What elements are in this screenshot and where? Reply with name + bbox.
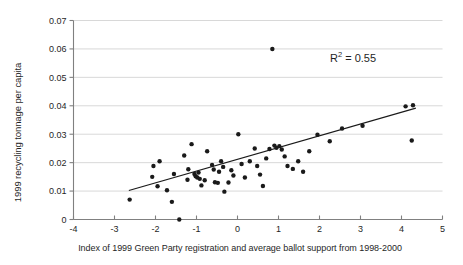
data-point [280, 147, 284, 151]
data-point [301, 170, 305, 174]
x-tick-label: -2 [151, 224, 159, 234]
data-point [210, 163, 214, 167]
x-tick-label: -3 [110, 224, 118, 234]
data-point [282, 154, 286, 158]
x-tick-label: 1 [276, 224, 281, 234]
data-point [222, 189, 226, 193]
plot-canvas: 00.010.020.030.040.050.060.07 -4-3-2-101… [0, 0, 463, 265]
data-point [185, 178, 189, 182]
data-point [296, 159, 300, 163]
x-tick-label: -4 [69, 224, 77, 234]
data-point [170, 200, 174, 204]
y-tick-labels-group: 00.010.020.030.040.050.060.07 [49, 16, 67, 225]
data-point [410, 138, 414, 142]
data-point [328, 139, 332, 143]
data-point [255, 164, 259, 168]
data-point [360, 123, 364, 127]
data-point [212, 167, 216, 171]
data-point [285, 164, 289, 168]
data-point [264, 156, 268, 160]
x-tick-label: 5 [440, 224, 445, 234]
data-point [221, 165, 225, 169]
data-point [172, 172, 176, 176]
r-squared-prefix: R [330, 52, 338, 64]
data-point [196, 170, 200, 174]
y-tick-label: 0.03 [49, 130, 67, 140]
y-tick-label: 0 [61, 215, 66, 225]
data-point [157, 159, 161, 163]
data-point [307, 149, 311, 153]
data-point [267, 147, 271, 151]
scatter-chart-figure: 1999 recycling tonnage per capita 00.010… [0, 0, 463, 265]
x-tick-label: 4 [399, 224, 404, 234]
data-point [243, 175, 247, 179]
data-point [189, 142, 193, 146]
x-tick-marks-group [74, 216, 443, 220]
y-tick-label: 0.05 [49, 73, 67, 83]
data-point [203, 178, 207, 182]
x-tick-label: 2 [317, 224, 322, 234]
trend-line [129, 108, 416, 190]
data-point [199, 183, 203, 187]
data-point [219, 159, 223, 163]
y-tick-label: 0.04 [49, 101, 67, 111]
data-point [231, 173, 235, 177]
y-tick-label: 0.01 [49, 186, 67, 196]
y-tick-label: 0.02 [49, 158, 67, 168]
data-point [205, 149, 209, 153]
data-point [150, 175, 154, 179]
data-point [229, 168, 233, 172]
data-point [217, 170, 221, 174]
x-tick-label: 3 [358, 224, 363, 234]
data-point [127, 197, 131, 201]
data-point [177, 217, 181, 221]
data-point [226, 180, 230, 184]
data-point [403, 104, 407, 108]
y-tick-label: 0.06 [49, 44, 67, 54]
data-point [315, 133, 319, 137]
y-tick-label: 0.07 [49, 16, 67, 26]
data-point [165, 188, 169, 192]
data-point [239, 162, 243, 166]
data-point [258, 172, 262, 176]
data-point [291, 167, 295, 171]
data-point [151, 164, 155, 168]
data-point [216, 181, 220, 185]
data-point [198, 177, 202, 181]
data-point [236, 132, 240, 136]
r-squared-suffix: = 0.55 [342, 52, 376, 64]
data-point [248, 159, 252, 163]
data-point [182, 153, 186, 157]
r-squared-annotation: R2 = 0.55 [330, 52, 376, 64]
x-axis-title: Index of 1999 Green Party registration a… [40, 243, 440, 253]
data-point [253, 146, 257, 150]
data-point [270, 47, 274, 51]
x-tick-label: 0 [235, 224, 240, 234]
data-point [411, 103, 415, 107]
x-tick-labels-group: -4-3-2-1012345 [69, 224, 445, 234]
data-point [155, 184, 159, 188]
data-point [186, 167, 190, 171]
data-point [340, 126, 344, 130]
x-tick-label: -1 [192, 224, 200, 234]
y-tick-marks-group [70, 21, 74, 220]
data-point [261, 184, 265, 188]
